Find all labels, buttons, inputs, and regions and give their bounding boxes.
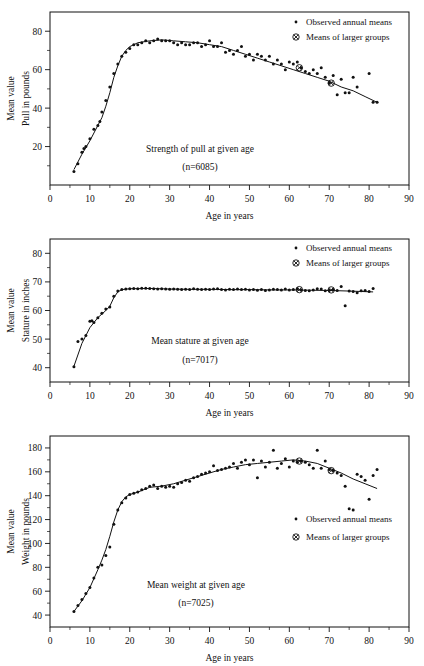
data-point — [208, 39, 211, 42]
data-point — [140, 488, 143, 491]
data-point — [352, 290, 355, 293]
data-point — [240, 461, 243, 464]
x-tick-label: 40 — [205, 636, 215, 646]
x-tick-label: 50 — [245, 636, 255, 646]
data-point — [272, 288, 275, 291]
x-tick-label: 60 — [285, 194, 295, 204]
data-point — [260, 55, 263, 58]
data-point — [244, 288, 247, 291]
data-point — [148, 41, 151, 44]
data-point — [312, 68, 315, 71]
data-point — [344, 91, 347, 94]
data-point — [184, 43, 187, 46]
data-point — [252, 288, 255, 291]
y-tick-label: 70 — [33, 277, 43, 287]
data-point — [256, 53, 259, 56]
data-point — [144, 39, 147, 42]
x-tick-label: 30 — [165, 194, 175, 204]
data-point — [280, 462, 283, 465]
data-point — [288, 466, 291, 469]
data-point — [228, 49, 231, 52]
legend-label-observed: Observed annual means — [306, 17, 392, 27]
data-point — [368, 498, 371, 501]
data-point — [256, 289, 259, 292]
y-tick-label: 160 — [28, 467, 43, 477]
data-point — [96, 316, 99, 319]
data-point — [332, 74, 335, 77]
data-point — [168, 288, 171, 291]
data-point — [92, 128, 95, 131]
data-point — [288, 60, 291, 63]
data-point — [376, 101, 379, 104]
y-tick-label: 20 — [33, 142, 43, 152]
pull-strength-chart: 010203040506070809020406080Age in yearsM… — [0, 0, 424, 222]
data-point — [292, 62, 295, 65]
y-axis-title-secondary: Weight in pounds — [21, 498, 31, 565]
weight-chart: 0102030405060708090406080100120140160180… — [0, 422, 424, 666]
data-point — [136, 491, 139, 494]
data-point — [276, 59, 279, 62]
data-point — [136, 43, 139, 46]
data-point — [240, 45, 243, 48]
y-tick-label: 60 — [33, 65, 43, 75]
y-tick-label: 60 — [33, 587, 43, 597]
data-point — [348, 290, 351, 293]
data-point — [72, 365, 75, 368]
x-tick-label: 10 — [85, 636, 95, 646]
data-point — [132, 287, 135, 290]
data-point — [252, 458, 255, 461]
data-point — [200, 288, 203, 291]
data-point — [132, 43, 135, 46]
x-tick-label: 40 — [205, 194, 215, 204]
data-point — [192, 476, 195, 479]
legend-label-observed: Observed annual means — [306, 243, 392, 253]
data-point — [236, 288, 239, 291]
chart-annotation-title: Strength of pull at given age — [146, 144, 254, 154]
data-point — [236, 49, 239, 52]
data-point — [176, 288, 179, 291]
data-point — [264, 59, 267, 62]
x-tick-label: 0 — [48, 391, 53, 401]
data-point — [156, 487, 159, 490]
x-tick-label: 0 — [48, 636, 53, 646]
data-point — [272, 62, 275, 65]
data-point — [98, 120, 101, 123]
data-point — [100, 312, 103, 315]
data-point — [100, 563, 103, 566]
x-tick-label: 20 — [125, 391, 135, 401]
data-point — [276, 467, 279, 470]
data-point — [124, 51, 127, 54]
y-tick-label: 60 — [33, 306, 43, 316]
data-point — [76, 604, 79, 607]
data-point — [348, 91, 351, 94]
data-point — [304, 70, 307, 73]
x-tick-label: 60 — [285, 391, 295, 401]
data-point — [356, 473, 359, 476]
data-point — [124, 497, 127, 500]
data-point — [248, 463, 251, 466]
x-tick-label: 70 — [324, 391, 334, 401]
data-point — [164, 39, 167, 42]
data-point — [252, 59, 255, 62]
data-point — [148, 485, 151, 488]
data-point — [336, 93, 339, 96]
data-point — [232, 53, 235, 56]
data-point — [224, 467, 227, 470]
data-point — [368, 72, 371, 75]
data-point — [176, 482, 179, 485]
legend-label-groups: Means of larger groups — [306, 258, 390, 268]
data-point — [164, 486, 167, 489]
x-tick-label: 60 — [285, 636, 295, 646]
data-point — [116, 290, 119, 293]
data-point — [140, 287, 143, 290]
data-point — [112, 523, 115, 526]
data-point — [164, 288, 167, 291]
data-point — [376, 468, 379, 471]
data-point — [308, 72, 311, 75]
data-point — [336, 289, 339, 292]
y-axis-title-primary: Mean value — [6, 509, 16, 554]
chart-annotation-subtitle: (n=6085) — [182, 162, 217, 173]
legend-label-observed: Observed annual means — [306, 514, 392, 524]
data-point — [260, 288, 263, 291]
data-point — [360, 289, 363, 292]
